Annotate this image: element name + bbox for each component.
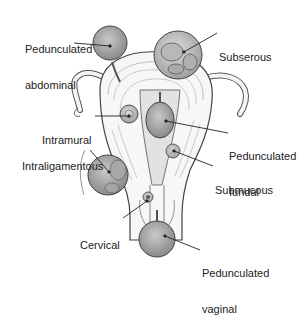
label-line: vaginal bbox=[202, 303, 269, 315]
label-intraligamentous: Intraligamentous bbox=[22, 136, 103, 196]
label-cervical: Cervical bbox=[80, 215, 120, 275]
label-pedunculated-vaginal: Pedunculated vaginal bbox=[202, 243, 269, 319]
label-line: Intraligamentous bbox=[22, 160, 103, 172]
label-subserous: Subserous bbox=[219, 27, 272, 87]
label-line: abdominal bbox=[25, 79, 92, 91]
label-submucous: Submucous bbox=[215, 160, 273, 220]
fibroid-intramural bbox=[120, 105, 138, 123]
label-line: Subserous bbox=[219, 51, 272, 63]
label-line: Submucous bbox=[215, 184, 273, 196]
fibroid-subserous bbox=[154, 31, 202, 79]
label-line: Pedunculated bbox=[25, 43, 92, 55]
label-line: Cervical bbox=[80, 239, 120, 251]
label-pedunculated-abdominal: Pedunculated abdominal bbox=[25, 19, 92, 115]
label-line: Pedunculated bbox=[202, 267, 269, 279]
